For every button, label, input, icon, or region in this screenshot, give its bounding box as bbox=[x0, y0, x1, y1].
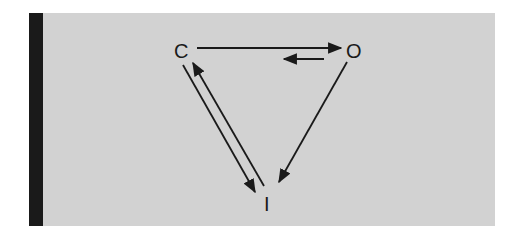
edge-c-to-i bbox=[183, 65, 255, 192]
node-o: O bbox=[346, 40, 362, 62]
edge-o-to-i bbox=[279, 62, 347, 182]
edge-i-to-c bbox=[193, 63, 264, 186]
node-c: C bbox=[174, 40, 188, 62]
diagram-canvas: C O I bbox=[0, 0, 512, 236]
node-i: I bbox=[264, 193, 270, 215]
